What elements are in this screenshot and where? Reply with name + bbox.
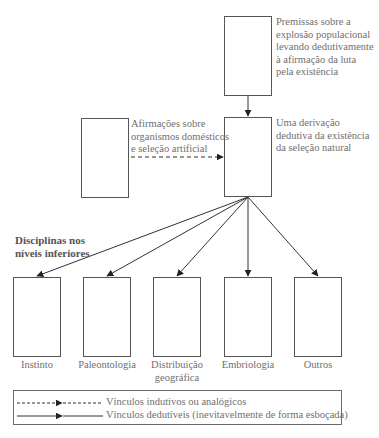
node-top-line: Premissas sobre a [276, 16, 374, 29]
discipline-box-outros [295, 278, 342, 357]
node-top-line: à afirmação da luta [276, 54, 374, 67]
node-top-label: Premissas sobre a explosão populacional … [276, 16, 374, 79]
discipline-label-distribuicao: Distribuição geográfica [143, 359, 211, 384]
node-left-label: Afirmações sobre organismos domésticos e… [131, 118, 229, 156]
node-top-line: explosão populacional [276, 29, 374, 42]
arrow-middle-to-distribuicao [177, 197, 248, 276]
node-top-line: pela existência [276, 66, 374, 79]
node-middle-box [225, 118, 272, 197]
arrow-middle-to-paleontologia [107, 197, 248, 276]
node-top-line: levando dedutivamente [276, 41, 374, 54]
discipline-label-line: geográfica [143, 372, 211, 385]
discipline-label-paleontologia: Paleontologia [73, 359, 141, 372]
legend-label-inductive: Vínculos indutivos ou analógicos [106, 396, 246, 407]
discipline-box-embriologia [225, 278, 272, 357]
node-top-box [225, 17, 272, 96]
node-left-line: organismos domésticos [131, 131, 229, 144]
node-left-line: Afirmações sobre [131, 118, 229, 131]
discipline-label-line: Distribuição [143, 359, 211, 372]
discipline-label-instinto: Instinto [7, 359, 67, 372]
node-middle-line: Uma derivação [276, 117, 369, 130]
legend-label-deductive: Vínculos dedutíveis (inevitavelmente de … [106, 409, 348, 420]
discipline-box-distribuicao [154, 278, 201, 357]
section-heading-line: Disciplinas nos [15, 234, 90, 247]
node-middle-label: Uma derivação dedutiva da existência da … [276, 117, 369, 155]
node-middle-line: dedutiva da existência [276, 130, 369, 143]
discipline-box-paleontologia [84, 278, 131, 357]
discipline-label-outros: Outros [288, 359, 348, 372]
section-heading: Disciplinas nos níveis inferiores [15, 234, 90, 260]
discipline-label-embriologia: Embriologia [214, 359, 282, 372]
discipline-box-instinto [14, 278, 61, 357]
node-left-line: e seleção artificial [131, 143, 229, 156]
section-heading-line: níveis inferiores [15, 247, 90, 260]
arrow-middle-to-outros [248, 197, 318, 276]
node-left-box [82, 119, 129, 198]
node-middle-line: da seleção natural [276, 142, 369, 155]
